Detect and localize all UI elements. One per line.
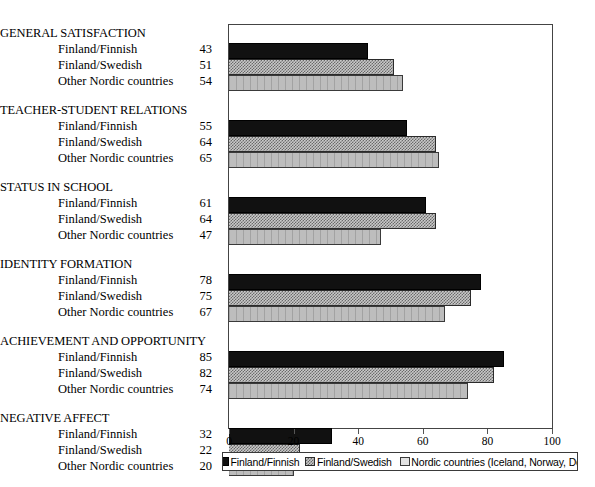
series-name: Finland/Swedish: [58, 212, 142, 227]
series-name: Finland/Swedish: [58, 289, 142, 304]
bar: [229, 290, 471, 306]
bar: [229, 367, 494, 383]
series-value: 82: [186, 366, 212, 381]
series-value: 54: [186, 74, 212, 89]
series-name: Finland/Finnish: [58, 350, 137, 365]
series-value: 55: [186, 119, 212, 134]
x-tick-mark: [358, 429, 359, 434]
series-name: Other Nordic countries: [58, 305, 173, 320]
x-tick-mark: [487, 429, 488, 434]
series-value: 67: [186, 305, 212, 320]
series-name: Other Nordic countries: [58, 74, 173, 89]
bar: [229, 43, 368, 59]
series-name: Finland/Finnish: [58, 273, 137, 288]
series-label-row: Finland/Swedish51: [0, 58, 222, 74]
legend-swatch-icon: [400, 457, 410, 466]
category-title: GENERAL SATISFACTION: [0, 26, 222, 41]
series-name: Finland/Finnish: [58, 42, 137, 57]
series-label-row: Finland/Swedish82: [0, 366, 222, 382]
series-value: 74: [186, 382, 212, 397]
series-label-row: Finland/Finnish32: [0, 427, 222, 443]
legend-item: Finland/Swedish: [299, 453, 391, 470]
legend-label: Finland/Finnish: [231, 456, 300, 468]
series-label-row: Finland/Finnish61: [0, 196, 222, 212]
series-name: Other Nordic countries: [58, 459, 173, 474]
series-name: Finland/Swedish: [58, 135, 142, 150]
bar: [229, 306, 445, 322]
series-value: 78: [186, 273, 212, 288]
series-label-row: Finland/Finnish85: [0, 350, 222, 366]
bar: [229, 120, 407, 136]
x-tick-label: 0: [226, 435, 232, 447]
chart-legend: Finland/FinnishFinland/SwedishNordic cou…: [222, 452, 578, 471]
x-tick-label: 100: [543, 435, 560, 447]
category-title: TEACHER-STUDENT RELATIONS: [0, 103, 222, 118]
series-label-row: Finland/Swedish75: [0, 289, 222, 305]
bar: [229, 351, 504, 367]
plot-area: [228, 24, 553, 429]
series-value: 32: [186, 427, 212, 442]
x-tick-mark: [294, 429, 295, 434]
series-name: Finland/Swedish: [58, 366, 142, 381]
x-tick-mark: [229, 429, 230, 434]
series-label-row: Other Nordic countries47: [0, 228, 222, 244]
bar: [229, 213, 436, 229]
x-axis: 020406080100: [228, 429, 553, 451]
category-title: IDENTITY FORMATION: [0, 257, 222, 272]
series-value: 43: [186, 42, 212, 57]
series-label-row: Other Nordic countries54: [0, 74, 222, 90]
series-value: 64: [186, 212, 212, 227]
bar: [229, 383, 468, 399]
bar: [229, 229, 381, 245]
x-tick-label: 20: [288, 435, 300, 447]
series-value: 47: [186, 228, 212, 243]
series-value: 61: [186, 196, 212, 211]
x-tick-mark: [423, 429, 424, 434]
series-value: 22: [186, 443, 212, 458]
series-label-row: Other Nordic countries20: [0, 459, 222, 475]
series-label-row: Finland/Finnish43: [0, 42, 222, 58]
x-tick-label: 60: [417, 435, 429, 447]
x-tick-label: 40: [352, 435, 364, 447]
series-value: 85: [186, 350, 212, 365]
series-value: 20: [186, 459, 212, 474]
bar: [229, 274, 481, 290]
legend-swatch-icon: [222, 457, 229, 466]
bars-layer: [229, 25, 552, 428]
legend-label: Finland/Swedish: [317, 456, 392, 468]
bar: [229, 75, 403, 91]
series-value: 75: [186, 289, 212, 304]
series-name: Finland/Finnish: [58, 427, 137, 442]
series-name: Finland/Finnish: [58, 119, 137, 134]
series-label-row: Finland/Finnish55: [0, 119, 222, 135]
category-title: ACHIEVEMENT AND OPPORTUNITY: [0, 334, 222, 349]
series-value: 65: [186, 151, 212, 166]
bar: [229, 197, 426, 213]
legend-item: Nordic countries (Iceland, Norway, Denma…: [392, 453, 578, 470]
series-label-row: Other Nordic countries74: [0, 382, 222, 398]
series-name: Other Nordic countries: [58, 382, 173, 397]
legend-item: Finland/Finnish: [223, 453, 299, 470]
legend-label: Nordic countries (Iceland, Norway, Denma…: [411, 456, 578, 468]
legend-swatch-icon: [305, 457, 315, 466]
series-label-row: Finland/Swedish64: [0, 135, 222, 151]
category-title: NEGATIVE AFFECT: [0, 411, 222, 426]
series-label-row: Other Nordic countries67: [0, 305, 222, 321]
category-label-column: GENERAL SATISFACTIONFinland/Finnish43Fin…: [0, 0, 228, 487]
series-name: Finland/Swedish: [58, 443, 142, 458]
bar: [229, 136, 436, 152]
x-tick-label: 80: [482, 435, 494, 447]
series-label-row: Other Nordic countries65: [0, 151, 222, 167]
series-label-row: Finland/Swedish64: [0, 212, 222, 228]
category-title: STATUS IN SCHOOL: [0, 180, 222, 195]
series-label-row: Finland/Swedish22: [0, 443, 222, 459]
series-name: Other Nordic countries: [58, 228, 173, 243]
bar: [229, 59, 394, 75]
bar: [229, 152, 439, 168]
series-value: 64: [186, 135, 212, 150]
series-label-row: Finland/Finnish78: [0, 273, 222, 289]
series-name: Other Nordic countries: [58, 151, 173, 166]
series-name: Finland/Finnish: [58, 196, 137, 211]
series-value: 51: [186, 58, 212, 73]
x-tick-mark: [552, 429, 553, 434]
